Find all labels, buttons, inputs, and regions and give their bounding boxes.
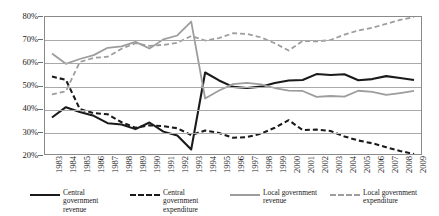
x-axis-tick-label: 1984 [69, 156, 78, 173]
gridline [45, 110, 421, 111]
x-axis-tick-label: 1991 [167, 156, 176, 173]
y-axis-tick-mark [38, 109, 43, 110]
legend-swatch-icon [30, 190, 60, 199]
x-axis-tick-label: 1985 [83, 156, 92, 173]
chart-container: 80%70%60%50%40%30%20% 198319841985198619… [0, 0, 439, 216]
x-axis-tick-label: 1990 [153, 156, 162, 173]
y-axis-tick-mark [38, 16, 43, 17]
y-axis-tick-mark [38, 155, 43, 156]
x-axis: 1983198419851986198719881989199019911992… [44, 156, 422, 188]
x-axis-tick-label: 1995 [223, 156, 232, 173]
x-axis-tick-label: 2008 [405, 156, 414, 173]
x-axis-tick-label: 1986 [97, 156, 106, 173]
legend-item-label: Central government revenue [63, 189, 121, 214]
x-axis-tick-label: 1996 [237, 156, 246, 173]
legend-item[interactable]: Local government expenditure [330, 189, 421, 206]
legend-item-label: Local government expenditure [363, 189, 421, 206]
y-axis-tick-label: 60% [22, 58, 38, 67]
x-axis-tick-label: 1989 [139, 156, 148, 173]
x-axis-tick-label: 1997 [251, 156, 260, 173]
x-axis-tick-label: 2007 [391, 156, 400, 173]
y-axis-tick-mark [38, 132, 43, 133]
y-axis-tick-label: 40% [22, 104, 38, 113]
y-axis-tick-label: 70% [22, 35, 38, 44]
x-axis-tick-label: 1993 [195, 156, 204, 173]
gridline [45, 87, 421, 88]
x-axis-tick-label: 2001 [307, 156, 316, 173]
x-axis-tick-label: 1983 [55, 156, 64, 173]
legend-item[interactable]: Central government expenditure [130, 189, 221, 214]
y-axis-tick-mark [38, 39, 43, 40]
legend-item[interactable]: Central government revenue [30, 189, 121, 214]
x-axis-tick-label: 1999 [279, 156, 288, 173]
y-axis-tick-mark [38, 86, 43, 87]
x-axis-tick-label: 2005 [363, 156, 372, 173]
y-axis-tick-label: 20% [22, 151, 38, 160]
legend-item[interactable]: Local government revenue [230, 189, 321, 206]
x-axis-tick-label: 1992 [181, 156, 190, 173]
x-axis-tick-label: 2002 [321, 156, 330, 173]
x-axis-tick-label: 1998 [265, 156, 274, 173]
legend-item-label: Central government expenditure [163, 189, 221, 214]
y-axis-tick-label: 50% [22, 81, 38, 90]
x-axis-tick-label: 2006 [377, 156, 386, 173]
legend-swatch-icon [130, 190, 160, 199]
y-axis-tick-label: 30% [22, 128, 38, 137]
x-axis-tick-label: 2009 [419, 156, 428, 173]
y-axis-tick-label: 80% [22, 12, 38, 21]
y-axis-tick-mark [38, 62, 43, 63]
chart-legend: Central government revenueCentral govern… [30, 189, 430, 213]
x-axis-tick-label: 2003 [335, 156, 344, 173]
x-axis-tick-label: 2000 [293, 156, 302, 173]
gridline [45, 40, 421, 41]
series-line [52, 17, 414, 94]
gridline [45, 133, 421, 134]
gridline [45, 63, 421, 64]
x-axis-tick-label: 1994 [209, 156, 218, 173]
legend-item-label: Local government revenue [263, 189, 321, 206]
x-axis-tick-label: 1988 [125, 156, 134, 173]
legend-swatch-icon [330, 190, 360, 199]
series-line [52, 77, 414, 154]
y-axis: 80%70%60%50%40%30%20% [0, 0, 42, 155]
plot-area [44, 16, 422, 155]
x-axis-tick-label: 2004 [349, 156, 358, 173]
legend-swatch-icon [230, 190, 260, 199]
x-axis-tick-label: 1987 [111, 156, 120, 173]
